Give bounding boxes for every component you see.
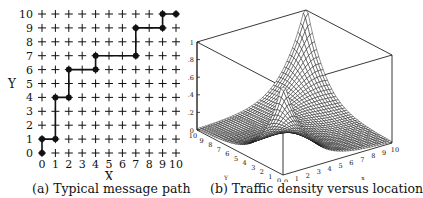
x-tick-label: 4 xyxy=(92,158,99,171)
y-axis-label: Y xyxy=(7,77,17,91)
x-tick-label: 8 xyxy=(146,158,153,171)
y-tick-label: 2 xyxy=(260,168,264,176)
x-tick-label: 2 xyxy=(65,158,72,171)
caption-b: (b) Traffic density versus location xyxy=(210,181,423,196)
x-tick-label: 7 xyxy=(132,158,139,171)
plus-grid xyxy=(38,10,180,157)
path-node-dot xyxy=(39,150,45,156)
x-tick-label: 4 xyxy=(328,165,332,173)
x-tick-label: 7 xyxy=(360,156,364,164)
z-tick-label: 1 xyxy=(190,39,194,47)
y-tick-label: 1 xyxy=(26,133,33,146)
path-node-dot xyxy=(133,53,139,59)
box-edge xyxy=(197,10,306,42)
y-axis-label: Y xyxy=(223,174,229,181)
y-tick-label: 9 xyxy=(26,22,33,35)
y-tick-label: 10 xyxy=(19,8,33,21)
path-node-dot xyxy=(66,94,72,100)
panel-a-message-path: 012345678910012345678910XY xyxy=(0,0,190,198)
path-node-dot xyxy=(160,11,166,17)
path-node-dot xyxy=(160,25,166,31)
z-tick-label: .6 xyxy=(188,74,194,82)
x-tick-label: 8 xyxy=(371,152,375,160)
x-tick-label: 10 xyxy=(169,158,183,171)
caption-a: (a) Typical message path xyxy=(32,181,190,196)
x-tick-label: 5 xyxy=(338,162,342,170)
y-tick-label: 10 xyxy=(189,132,197,140)
path-node-dot xyxy=(66,67,72,73)
y-tick-label: 5 xyxy=(26,78,33,91)
box-edge xyxy=(197,42,283,87)
panel-b-traffic-density: 0.2.4.6.81012345678910012345678910Yx xyxy=(188,0,412,182)
y-tick-label: 4 xyxy=(26,91,33,104)
y-tick-label: 8 xyxy=(208,141,212,149)
traffic-density-surface-plot: 0.2.4.6.81012345678910012345678910Yx xyxy=(188,0,412,182)
y-tick-label: 0 xyxy=(26,147,33,160)
y-tick-label: 6 xyxy=(26,64,33,77)
x-tick-label: 6 xyxy=(119,158,126,171)
y-tick-label: 2 xyxy=(26,119,33,132)
y-tick-label: 3 xyxy=(26,105,33,118)
z-tick-label: .8 xyxy=(188,56,194,64)
path-node-dot xyxy=(52,94,58,100)
x-tick-label: 2 xyxy=(306,172,310,180)
y-tick-label: 8 xyxy=(26,36,33,49)
y-tick-label: 6 xyxy=(225,150,229,158)
x-tick-label: 0 xyxy=(39,158,46,171)
x-tick-label: 1 xyxy=(52,158,59,171)
path-node-dot xyxy=(93,53,99,59)
path-node-dot xyxy=(173,11,179,17)
z-tick-label: .2 xyxy=(188,109,194,117)
box-edge xyxy=(306,10,392,55)
x-axis-label: X xyxy=(105,170,114,180)
density-mesh xyxy=(197,10,392,151)
x-axis-label: x xyxy=(361,174,365,181)
y-tick-label: 7 xyxy=(26,50,33,63)
x-tick-label: 9 xyxy=(382,149,386,157)
x-tick-label: 6 xyxy=(349,159,353,167)
path-node-dot xyxy=(133,25,139,31)
x-tick-label: 10 xyxy=(391,146,399,154)
y-tick-label: 9 xyxy=(200,137,204,145)
x-tick-label: 9 xyxy=(159,158,166,171)
y-tick-label: 7 xyxy=(217,146,221,154)
y-tick-label: 4 xyxy=(243,159,247,167)
y-tick-label: 5 xyxy=(234,155,238,163)
path-node-dot xyxy=(39,136,45,142)
y-tick-label: 1 xyxy=(268,173,272,181)
x-tick-label: 3 xyxy=(317,168,321,176)
path-node-dot xyxy=(52,136,58,142)
z-tick-label: .4 xyxy=(188,91,194,99)
x-tick-label: 3 xyxy=(79,158,86,171)
path-node-dot xyxy=(93,67,99,73)
message-path-plot: 012345678910012345678910XY xyxy=(0,0,190,180)
y-tick-label: 3 xyxy=(251,164,255,172)
